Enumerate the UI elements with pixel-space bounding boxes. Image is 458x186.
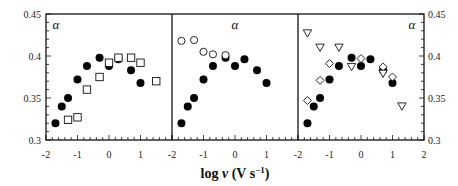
marker-filled-circle [96, 54, 104, 62]
marker-filled-circle [240, 55, 248, 63]
marker-open-triangle-down [398, 103, 406, 110]
marker-open-circle [190, 36, 197, 43]
axis-labels: 0.30.30.350.350.40.40.450.45-2-101α-2-10… [24, 9, 446, 161]
marker-open-square [83, 86, 90, 93]
marker-open-triangle-down [347, 63, 355, 70]
marker-open-circle [222, 52, 229, 59]
marker-filled-circle [177, 119, 185, 127]
marker-filled-circle [316, 94, 324, 102]
marker-open-square [115, 54, 122, 61]
x-tick-label: -1 [199, 149, 207, 160]
marker-open-square [64, 116, 71, 123]
x-tick-label: 2 [422, 149, 427, 160]
x-tick-label: 1 [264, 149, 269, 160]
marker-filled-circle [200, 76, 208, 84]
marker-open-square [105, 59, 112, 66]
x-tick-label: 0 [107, 149, 112, 160]
marker-filled-circle [58, 102, 66, 110]
marker-open-triangle-down [303, 30, 311, 37]
chart: 0.30.30.350.350.40.40.450.45-2-101α-2-10… [0, 0, 458, 186]
marker-open-diamond [316, 76, 324, 84]
alpha-annotation: α [409, 17, 417, 32]
marker-open-triangle-down [316, 44, 324, 51]
data-points [51, 30, 406, 127]
marker-filled-circle [335, 62, 343, 70]
x-tick-label: 1 [138, 149, 143, 160]
marker-open-square [96, 73, 103, 80]
marker-filled-circle [64, 94, 72, 102]
x-tick-label: -2 [42, 149, 50, 160]
y-tick-label-right: 0.3 [428, 135, 441, 146]
marker-filled-circle [184, 102, 192, 110]
marker-open-diamond [357, 55, 365, 63]
x-tick-label: -2 [168, 149, 176, 160]
marker-open-diamond [303, 97, 311, 105]
marker-filled-circle [366, 55, 374, 63]
x-tick-label: 0 [359, 149, 364, 160]
marker-filled-circle [348, 54, 356, 62]
alpha-annotation: α [53, 17, 61, 32]
marker-filled-circle [209, 62, 217, 70]
marker-open-square [153, 78, 160, 85]
marker-open-diamond [326, 60, 334, 68]
marker-filled-circle [303, 119, 311, 127]
marker-filled-circle [357, 62, 365, 70]
marker-filled-circle [326, 76, 334, 84]
marker-open-circle [200, 48, 207, 55]
marker-filled-circle [231, 62, 239, 70]
marker-filled-circle [253, 66, 261, 74]
y-tick-label-right: 0.35 [428, 93, 446, 104]
marker-filled-circle [310, 102, 318, 110]
marker-open-square [137, 59, 144, 66]
marker-open-square [127, 54, 134, 61]
y-tick-label-right: 0.45 [428, 9, 446, 20]
x-tick-label: -2 [294, 149, 302, 160]
y-tick-label-right: 0.4 [428, 51, 441, 62]
alpha-annotation: α [232, 17, 240, 32]
marker-filled-circle [83, 62, 91, 70]
marker-open-circle [209, 51, 216, 58]
marker-open-triangle-down [335, 44, 343, 51]
marker-filled-circle [137, 79, 145, 87]
x-axis-label: log v (V s−1) [201, 165, 270, 182]
x-tick-label: 0 [233, 149, 238, 160]
marker-filled-circle [127, 66, 135, 74]
y-tick-label-left: 0.4 [29, 51, 42, 62]
marker-open-square [74, 114, 81, 121]
y-tick-label-left: 0.35 [24, 93, 42, 104]
x-tick-label: 1 [390, 149, 395, 160]
marker-filled-circle [263, 79, 271, 87]
marker-open-diamond [389, 73, 397, 81]
marker-open-circle [178, 37, 185, 44]
x-tick-label: -1 [325, 149, 333, 160]
y-tick-label-left: 0.45 [24, 9, 42, 20]
x-tick-label: -1 [73, 149, 81, 160]
marker-filled-circle [74, 76, 82, 84]
y-tick-label-left: 0.3 [29, 135, 42, 146]
marker-filled-circle [190, 94, 198, 102]
marker-open-triangle-down [379, 70, 387, 77]
marker-filled-circle [51, 119, 59, 127]
